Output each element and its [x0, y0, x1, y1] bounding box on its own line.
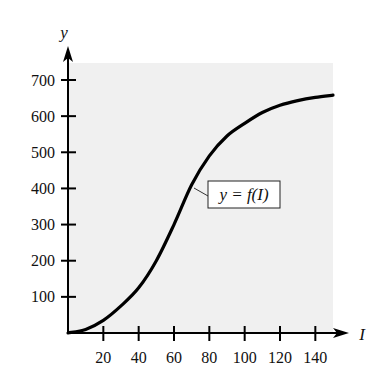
y-tick-label: 400: [31, 180, 55, 197]
y-tick-label: 600: [31, 108, 55, 125]
chart: 100200300400500600700 20406080100120140 …: [0, 0, 378, 390]
plot-background: [68, 63, 333, 333]
y-tick-label: 100: [31, 288, 55, 305]
y-tick-label: 200: [31, 252, 55, 269]
y-tick-label: 300: [31, 216, 55, 233]
x-tick-label: 120: [268, 349, 292, 366]
x-tick-label: 20: [95, 349, 111, 366]
y-tick-label: 500: [31, 144, 55, 161]
y-axis-label: y: [58, 23, 68, 42]
x-tick-label: 60: [166, 349, 182, 366]
function-label: y = f(I): [217, 185, 269, 204]
x-tick-label: 100: [233, 349, 257, 366]
x-tick-label: 140: [303, 349, 327, 366]
x-axis-label: I: [358, 325, 366, 344]
x-tick-label: 80: [201, 349, 217, 366]
y-tick-label: 700: [31, 72, 55, 89]
x-tick-label: 40: [131, 349, 147, 366]
